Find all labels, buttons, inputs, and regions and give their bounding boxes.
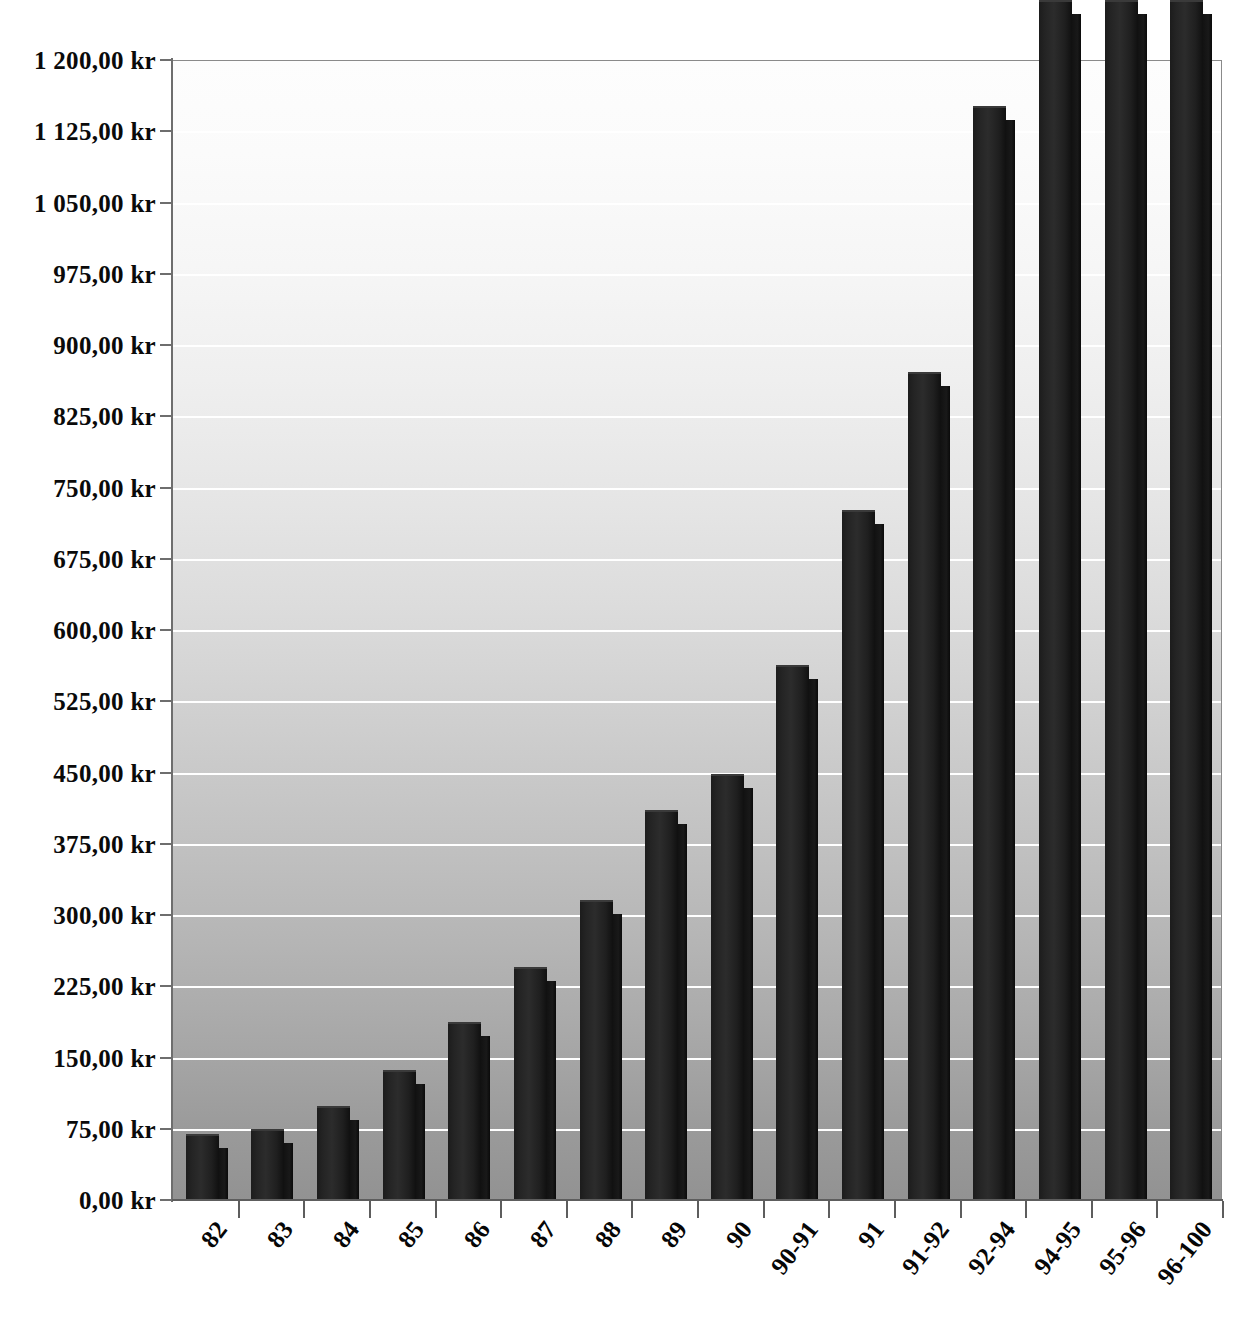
x-axis-tick	[631, 1201, 633, 1218]
bar-side-face	[547, 981, 556, 1200]
bar	[186, 1134, 228, 1201]
bar-front-face	[1105, 0, 1138, 1200]
y-axis-tick	[160, 130, 172, 132]
x-axis-tick-label: 82	[196, 1216, 234, 1253]
bar-side-face	[678, 824, 687, 1200]
bar-side-face	[284, 1143, 293, 1200]
y-axis-tick-label: 750,00 kr	[53, 475, 156, 500]
bar-front-face	[514, 967, 547, 1200]
x-axis-tick-label: 94-95	[1028, 1216, 1087, 1280]
y-axis-tick-label: 450,00 kr	[53, 760, 156, 785]
x-axis-tick-label: 91	[852, 1216, 890, 1253]
bar	[711, 774, 753, 1200]
x-axis-tick-label: 88	[589, 1216, 627, 1253]
x-axis-tick-label: 84	[327, 1216, 365, 1253]
bar-front-face	[317, 1106, 350, 1200]
bar-side-face	[350, 1120, 359, 1200]
bar	[973, 106, 1015, 1200]
bar	[383, 1070, 425, 1200]
y-axis-tick-label: 975,00 kr	[53, 261, 156, 286]
y-axis-tick	[160, 344, 172, 346]
y-axis-tick-label: 75,00 kr	[66, 1116, 156, 1141]
x-axis-tick	[369, 1201, 371, 1218]
y-axis-tick-label: 1 125,00 kr	[34, 119, 156, 144]
bar-chart: 0,00 kr75,00 kr150,00 kr225,00 kr300,00 …	[0, 0, 1241, 1327]
bar	[776, 665, 818, 1200]
bar-front-face	[711, 774, 744, 1200]
x-axis-tick	[1025, 1201, 1027, 1218]
y-axis-tick	[160, 1199, 172, 1201]
bar	[1170, 0, 1212, 1200]
x-axis-tick-label: 86	[458, 1216, 496, 1253]
bar-side-face	[1006, 120, 1015, 1200]
bar-side-face	[1072, 14, 1081, 1200]
y-axis-tick	[160, 558, 172, 560]
x-axis-tick-label: 96-100	[1151, 1216, 1217, 1290]
y-axis-tick-label: 225,00 kr	[53, 974, 156, 999]
y-axis-tick-label: 1 050,00 kr	[34, 190, 156, 215]
bar-front-face	[1039, 0, 1072, 1200]
x-axis-tick	[894, 1201, 896, 1218]
bar-side-face	[613, 914, 622, 1200]
x-axis-tick-label: 92-94	[962, 1216, 1021, 1280]
plot-area	[172, 60, 1222, 1200]
x-axis-tick	[238, 1201, 240, 1218]
x-axis-tick	[566, 1201, 568, 1218]
x-axis-tick-label: 85	[393, 1216, 431, 1253]
bar	[448, 1022, 490, 1200]
x-axis-tick-label: 95-96	[1094, 1216, 1153, 1280]
bar-front-face	[448, 1022, 481, 1200]
bar-front-face	[908, 372, 941, 1200]
bar-side-face	[1138, 14, 1147, 1200]
y-axis-tick	[160, 629, 172, 631]
bar	[1039, 0, 1081, 1200]
y-axis-tick	[160, 985, 172, 987]
y-axis-tick	[160, 914, 172, 916]
bar-side-face	[481, 1036, 490, 1200]
x-axis-tick	[697, 1201, 699, 1218]
x-axis-tick-label: 83	[261, 1216, 299, 1253]
bar-side-face	[941, 386, 950, 1200]
x-axis-tick	[500, 1201, 502, 1218]
bar-side-face	[219, 1148, 228, 1201]
y-axis-tick-label: 900,00 kr	[53, 333, 156, 358]
bar-front-face	[383, 1070, 416, 1200]
bar-side-face	[875, 524, 884, 1200]
y-axis-tick-label: 300,00 kr	[53, 903, 156, 928]
bar	[317, 1106, 359, 1200]
bar-side-face	[1203, 14, 1212, 1200]
bar-front-face	[645, 810, 678, 1200]
y-axis-tick	[160, 273, 172, 275]
y-axis-tick-label: 375,00 kr	[53, 831, 156, 856]
y-axis-tick-label: 675,00 kr	[53, 546, 156, 571]
bar-side-face	[809, 679, 818, 1200]
bar	[908, 372, 950, 1200]
bar	[580, 900, 622, 1200]
x-axis-tick	[1091, 1201, 1093, 1218]
bar-front-face	[251, 1129, 284, 1200]
y-axis-tick	[160, 487, 172, 489]
bar	[251, 1129, 293, 1200]
y-axis-tick	[160, 843, 172, 845]
bar-front-face	[842, 510, 875, 1200]
y-axis-tick-label: 825,00 kr	[53, 404, 156, 429]
y-axis-tick	[160, 700, 172, 702]
x-axis-tick	[763, 1201, 765, 1218]
y-axis-tick-label: 0,00 kr	[79, 1188, 156, 1213]
x-axis-tick	[303, 1201, 305, 1218]
bar-front-face	[580, 900, 613, 1200]
x-axis-tick-label: 90	[721, 1216, 759, 1253]
x-axis-tick	[1222, 1201, 1224, 1218]
bar	[645, 810, 687, 1200]
y-axis-tick-label: 525,00 kr	[53, 689, 156, 714]
bar-front-face	[973, 106, 1006, 1200]
x-axis-tick	[1156, 1201, 1158, 1218]
y-axis-tick-label: 1 200,00 kr	[34, 48, 156, 73]
x-axis-tick-label: 89	[655, 1216, 693, 1253]
bar-side-face	[416, 1084, 425, 1200]
bar-side-face	[744, 788, 753, 1200]
bar-front-face	[186, 1134, 219, 1201]
y-axis-tick	[160, 1057, 172, 1059]
y-axis-tick	[160, 59, 172, 61]
x-axis-tick-label: 90-91	[765, 1216, 824, 1280]
